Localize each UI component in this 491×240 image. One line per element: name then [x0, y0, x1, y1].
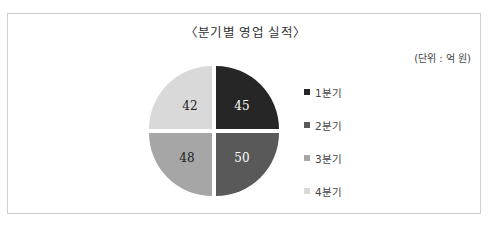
unit-label: (단위 : 억 원) — [414, 50, 471, 65]
legend-swatch-q3 — [304, 155, 310, 161]
legend-item-q3: 3분기 — [304, 153, 342, 163]
legend-swatch-q4 — [304, 188, 310, 194]
legend-swatch-q1 — [304, 89, 310, 95]
legend-swatch-q2 — [304, 122, 310, 128]
legend-item-q1: 1분기 — [304, 87, 342, 97]
legend-item-q2: 2분기 — [304, 120, 342, 130]
slice-label-q2: 50 — [234, 151, 249, 165]
legend-label-q2: 2분기 — [315, 118, 342, 133]
slice-label-q3: 48 — [179, 151, 194, 165]
legend-label-q1: 1분기 — [315, 85, 342, 100]
pie-chart: 45 50 48 42 — [140, 60, 290, 210]
slice-label-q1: 45 — [234, 99, 249, 113]
legend-item-q4: 4분기 — [304, 186, 342, 196]
slice-q4 — [149, 66, 212, 129]
chart-title: 〈분기별 영업 실적〉 — [0, 22, 491, 41]
slice-q1 — [216, 66, 279, 129]
legend-label-q4: 4분기 — [315, 184, 342, 199]
slice-label-q4: 42 — [182, 99, 197, 113]
legend-label-q3: 3분기 — [315, 151, 342, 166]
chart-legend: 1분기 2분기 3분기 4분기 — [304, 87, 342, 219]
